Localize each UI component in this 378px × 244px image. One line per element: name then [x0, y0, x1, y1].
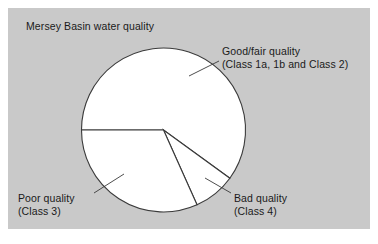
- callout-good-fair-line1: Good/fair quality: [222, 45, 300, 57]
- callout-bad-line1: Bad quality: [234, 192, 287, 204]
- callout-bad-quality: Bad quality (Class 4): [234, 192, 287, 217]
- callout-good-fair-quality: Good/fair quality (Class 1a, 1b and Clas…: [222, 45, 348, 70]
- callout-bad-line2: (Class 4): [234, 205, 287, 218]
- callout-good-fair-line2: (Class 1a, 1b and Class 2): [222, 58, 348, 71]
- callout-poor-quality: Poor quality (Class 3): [18, 192, 75, 217]
- callout-poor-line1: Poor quality: [18, 192, 75, 204]
- callout-poor-line2: (Class 3): [18, 205, 75, 218]
- figure-container: Mersey Basin water quality Good/fair qua…: [0, 0, 378, 244]
